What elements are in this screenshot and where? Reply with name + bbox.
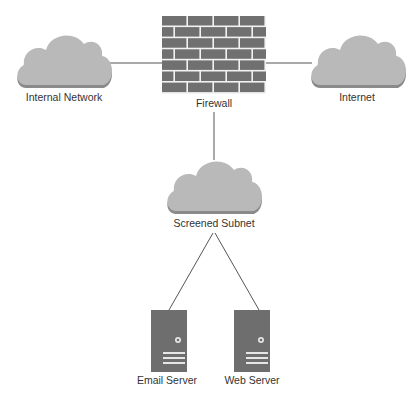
cloud-icon [167,161,262,214]
brick-wall-icon [162,16,266,94]
screened-subnet-label: Screened Subnet [173,217,254,229]
internet-label: Internet [339,91,375,103]
email-server-node: Email Server [137,310,198,386]
edge-subnet-email [169,233,213,310]
email-server-label: Email Server [137,374,198,386]
screened-subnet-node: Screened Subnet [167,161,262,229]
firewall-node: Firewall [162,16,266,109]
edge-subnet-web [215,233,259,310]
cloud-icon [311,35,406,88]
internet-node: Internet [311,35,406,103]
internal-network-label: Internal Network [26,91,103,103]
web-server-label: Web Server [224,374,280,386]
internal-network-node: Internal Network [17,35,112,103]
cloud-icon [17,35,112,88]
server-tower-icon [151,310,187,372]
web-server-node: Web Server [224,310,280,386]
server-tower-icon [234,310,270,372]
network-diagram: Internal Network Firewall Internet Scree… [0,0,419,400]
firewall-label: Firewall [196,97,232,109]
